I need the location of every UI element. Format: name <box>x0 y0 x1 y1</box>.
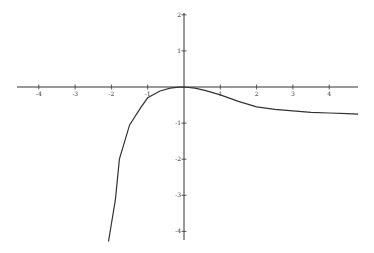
x-tick-label: -2 <box>108 90 114 97</box>
y-tick-label: -4 <box>175 227 181 234</box>
x-tick-label: -3 <box>72 90 78 97</box>
chart-plot: -4-3-2-11234 21-1-2-3-4 <box>0 0 374 253</box>
x-tick-label: 3 <box>291 90 295 97</box>
y-axis-ticks: 21-1-2-3-4 <box>175 11 186 235</box>
x-tick-label: -4 <box>36 90 42 97</box>
x-tick-label: 2 <box>255 90 259 97</box>
y-tick-label: 1 <box>177 47 181 54</box>
y-tick-label: -1 <box>175 119 181 126</box>
x-tick-label: 4 <box>327 90 331 97</box>
y-tick-label: -2 <box>175 155 181 162</box>
y-tick-label: 2 <box>177 11 181 18</box>
function-curve <box>109 87 359 242</box>
y-tick-label: -3 <box>175 191 181 198</box>
x-tick-label: -1 <box>145 90 151 97</box>
